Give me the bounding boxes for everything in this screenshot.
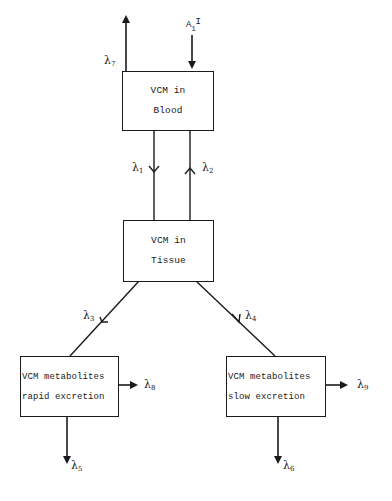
rate-label-l4: λ4: [245, 310, 256, 323]
rate-label-l9: λ9: [357, 379, 368, 392]
rate-label-l2: λ2: [202, 162, 213, 175]
rate-label-l3: λ3: [83, 310, 94, 323]
input-label-sup: I: [196, 17, 201, 27]
compartment-diagram: VCM in Blood VCM in Tissue VCM metabolit…: [0, 0, 392, 501]
rate-label-l1: λ1: [132, 162, 143, 175]
compartment-slow-line1: VCM metabolites: [228, 367, 311, 387]
compartment-blood: VCM in Blood: [122, 71, 214, 131]
rate-label-l8: λ8: [144, 379, 155, 392]
compartment-rapid-line1: VCM metabolites: [22, 367, 105, 387]
compartment-slow-line2: slow excretion: [228, 387, 305, 407]
rate-label-l7: λ7: [104, 55, 115, 68]
rate-label-l5: λ5: [71, 460, 82, 473]
line-l3: [70, 281, 139, 356]
compartment-tissue-line2: Tissue: [151, 251, 186, 271]
compartment-blood-line2: Blood: [153, 101, 182, 121]
input-label: A1I: [186, 20, 201, 30]
compartment-tissue-line1: VCM in: [151, 231, 186, 251]
compartment-tissue: VCM in Tissue: [123, 220, 214, 282]
compartment-blood-line1: VCM in: [151, 81, 186, 101]
compartment-rapid-excretion: VCM metabolites rapid excretion: [20, 356, 119, 417]
compartment-slow-excretion: VCM metabolites slow excretion: [226, 356, 326, 417]
input-label-sub: 1: [191, 25, 195, 33]
compartment-rapid-line2: rapid excretion: [22, 387, 105, 407]
rate-label-l6: λ6: [283, 460, 294, 473]
chevron-l4: [232, 314, 240, 322]
